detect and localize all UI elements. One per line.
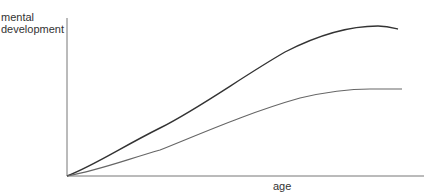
upper-curve [67,26,398,176]
x-axis-label: age [273,180,291,192]
chart-plot [0,0,444,195]
lower-curve [67,89,402,176]
